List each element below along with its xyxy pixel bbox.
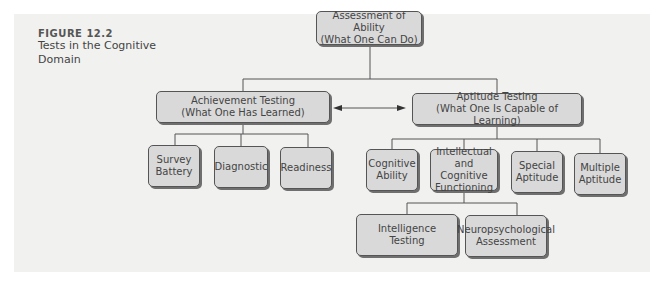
node-intellectual-cognitive-functioning: Intellectualand CognitiveFunctioning	[430, 149, 498, 191]
arrow-right-icon	[397, 105, 406, 111]
node-achievement-testing: Achievement Testing(What One Has Learned…	[156, 91, 330, 123]
node-neuropsychological-assessment: NeuropsychologicalAssessment	[465, 215, 547, 257]
node-cognitive-ability: CognitiveAbility	[366, 149, 418, 191]
node-special-aptitude: SpecialAptitude	[511, 151, 563, 193]
node-multiple-aptitude: MultipleAptitude	[574, 153, 626, 195]
node-readiness: Readiness	[280, 147, 332, 189]
node-aptitude-testing: Aptitude Testing(What One Is Capable of …	[412, 93, 582, 125]
node-diagnostic: Diagnostic	[214, 146, 268, 188]
node-survey-battery: SurveyBattery	[148, 145, 200, 187]
node-intelligence-testing: IntelligenceTesting	[356, 214, 458, 256]
arrow-left-icon	[333, 105, 342, 111]
node-assessment-of-ability: Assessment of Ability(What One Can Do)	[316, 11, 422, 45]
